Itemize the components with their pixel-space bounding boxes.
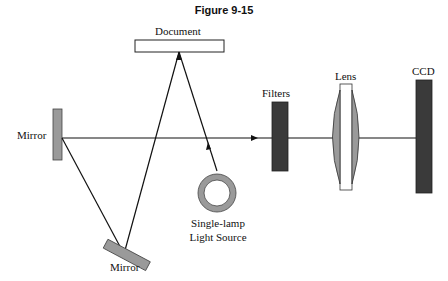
label-mirror-top: Mirror: [17, 129, 46, 141]
mirror-top: [53, 109, 62, 160]
ccd-sensor: [416, 80, 432, 193]
lens-core: [340, 84, 352, 190]
lens-right-curve: [352, 90, 359, 184]
axis-arrow-icon: [251, 135, 258, 141]
label-light-source-line2: Light Source: [186, 231, 250, 243]
reflection-path-2: [124, 52, 179, 254]
label-light-source-line1: Single-lamp: [190, 217, 246, 229]
light-source-center: [204, 180, 230, 206]
light-arrow-icon: [206, 142, 211, 150]
label-lens: Lens: [335, 70, 356, 82]
reflection-path-1: [62, 138, 124, 254]
illumination-path: [179, 52, 217, 171]
filters-block: [272, 102, 288, 171]
document-arrow-icon: [176, 52, 182, 60]
label-filters: Filters: [262, 87, 290, 99]
label-mirror-bottom: Mirror: [110, 261, 139, 273]
document-plate: [135, 40, 224, 52]
lens-left-curve: [333, 90, 341, 184]
label-ccd: CCD: [412, 65, 435, 77]
label-document: Document: [155, 25, 201, 37]
